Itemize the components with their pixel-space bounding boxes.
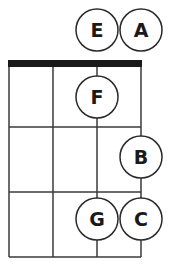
fretboard-diagram: E A F B G C bbox=[0, 0, 178, 271]
note-marker-c: C bbox=[120, 198, 162, 240]
note-label: C bbox=[134, 208, 148, 230]
frets bbox=[9, 127, 141, 257]
note-label: A bbox=[134, 19, 149, 41]
note-label: B bbox=[134, 146, 148, 168]
note-label: F bbox=[91, 86, 104, 108]
note-marker-e: E bbox=[76, 9, 118, 51]
note-label: E bbox=[91, 19, 104, 41]
note-label: G bbox=[89, 208, 105, 230]
note-marker-g: G bbox=[76, 198, 118, 240]
note-marker-a: A bbox=[120, 9, 162, 51]
note-marker-f: F bbox=[76, 76, 118, 118]
nut bbox=[8, 60, 142, 67]
note-marker-b: B bbox=[120, 136, 162, 178]
